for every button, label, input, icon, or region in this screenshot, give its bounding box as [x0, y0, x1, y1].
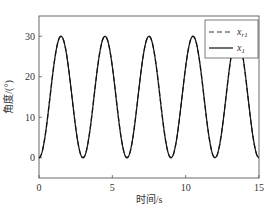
- line-chart: 0510150102030 xr1 x1 时间/s 角度/(°): [0, 0, 273, 211]
- svg-text:20: 20: [25, 71, 35, 82]
- legend: xr1 x1: [205, 20, 258, 58]
- svg-text:10: 10: [25, 112, 35, 123]
- svg-text:30: 30: [25, 31, 35, 42]
- svg-text:10: 10: [181, 182, 191, 193]
- svg-text:15: 15: [254, 182, 264, 193]
- svg-text:5: 5: [110, 182, 115, 193]
- x-axis-label: 时间/s: [136, 193, 163, 205]
- svg-text:0: 0: [30, 152, 35, 163]
- svg-text:0: 0: [37, 182, 42, 193]
- y-axis-label: 角度/(°): [2, 80, 15, 113]
